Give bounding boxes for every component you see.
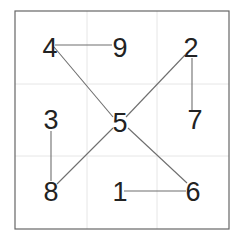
cell-label-r2c2: 6 xyxy=(178,178,208,206)
cell-label-r1c0: 3 xyxy=(36,106,66,134)
cell-label-r2c1: 1 xyxy=(105,178,135,206)
cell-label-r0c0: 4 xyxy=(35,34,65,62)
cell-label-r2c0: 8 xyxy=(36,178,66,206)
cell-label-r1c2: 7 xyxy=(180,106,210,134)
edge-2-5 xyxy=(126,55,185,117)
cell-label-r0c2: 2 xyxy=(176,34,206,62)
cell-label-r0c1: 9 xyxy=(105,34,135,62)
cell-label-r1c1: 5 xyxy=(105,109,135,137)
